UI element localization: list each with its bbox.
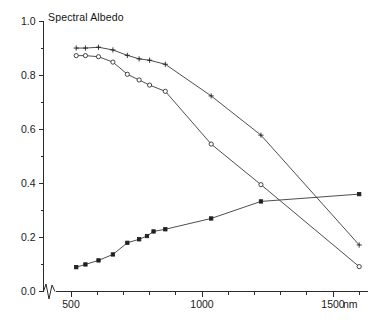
y-tick-label: 0.8 <box>21 69 36 81</box>
x-axis: 50010001500 nm <box>44 284 369 310</box>
data-point-circle <box>96 55 100 59</box>
data-point-square <box>97 259 100 262</box>
data-point-circle <box>357 265 361 269</box>
x-axis-major-ticks <box>71 292 333 297</box>
x-axis-unit-label: nm <box>343 298 358 310</box>
y-axis-tick-labels: 0.00.20.40.60.81.0 <box>21 15 36 298</box>
data-series-layer <box>74 45 362 269</box>
data-point-plus <box>83 45 88 50</box>
data-point-circle <box>209 142 213 146</box>
data-point-square <box>137 238 140 241</box>
series-line <box>76 56 359 267</box>
data-point-plus <box>163 62 168 67</box>
y-tick-label: 0.4 <box>21 177 36 189</box>
axis-break-icon <box>44 284 56 299</box>
data-point-square <box>126 241 129 244</box>
data-point-square <box>164 228 167 231</box>
data-point-square <box>209 217 212 220</box>
data-point-plus <box>137 56 142 61</box>
data-point-circle <box>74 54 78 58</box>
data-point-circle <box>125 72 129 76</box>
y-tick-label: 0.6 <box>21 123 36 135</box>
series-line <box>76 47 359 245</box>
data-point-circle <box>111 60 115 64</box>
data-point-circle <box>163 89 167 93</box>
series-middle-curve-open-circle <box>74 54 361 269</box>
x-tick-label: 1500 <box>321 298 345 310</box>
data-point-square <box>111 253 114 256</box>
data-point-square <box>259 200 262 203</box>
spectral-albedo-figure: Spectral Albedo 0.00.20.40.60.81.0 50010… <box>0 0 392 325</box>
y-tick-label: 1.0 <box>21 15 36 27</box>
x-tick-label: 1000 <box>190 298 214 310</box>
x-axis-tick-labels: 50010001500 <box>62 298 345 310</box>
series-lower-curve-ascending-square <box>75 192 361 268</box>
data-point-circle <box>259 183 263 187</box>
data-point-plus <box>74 45 79 50</box>
data-point-plus <box>110 47 115 52</box>
data-point-square <box>84 263 87 266</box>
series-upper-curve-plus <box>74 45 362 248</box>
data-point-square <box>75 265 78 268</box>
data-point-square <box>152 230 155 233</box>
data-point-circle <box>148 83 152 87</box>
data-point-plus <box>125 53 130 58</box>
plot-canvas: 0.00.20.40.60.81.0 50010001500 nm <box>0 0 392 325</box>
x-tick-label: 500 <box>62 298 80 310</box>
data-point-plus <box>147 58 152 63</box>
y-tick-label: 0.2 <box>21 231 36 243</box>
y-tick-label: 0.0 <box>21 285 36 297</box>
data-point-circle <box>83 54 87 58</box>
data-point-circle <box>137 78 141 82</box>
y-axis: 0.00.20.40.60.81.0 <box>21 15 44 298</box>
data-point-square <box>358 192 361 195</box>
data-point-square <box>145 234 148 237</box>
data-point-plus <box>96 45 101 50</box>
